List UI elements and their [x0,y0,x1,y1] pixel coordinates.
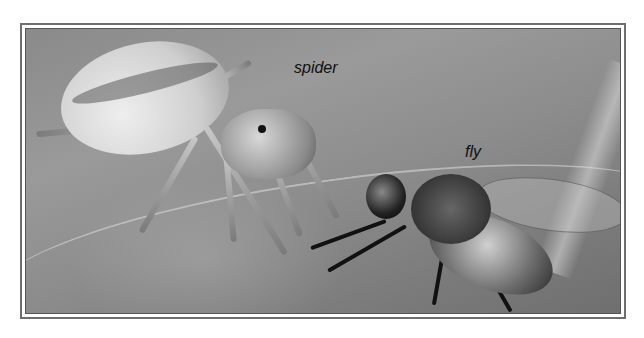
label-fly: fly [465,143,481,161]
fly-thorax [411,174,491,244]
spider-head [221,109,316,179]
fly-eye [366,174,406,219]
photo-spider-and-fly: spider fly [25,28,621,314]
label-spider: spider [294,59,338,77]
spider-eye [258,125,266,133]
figure-frame: spider fly [20,23,626,319]
